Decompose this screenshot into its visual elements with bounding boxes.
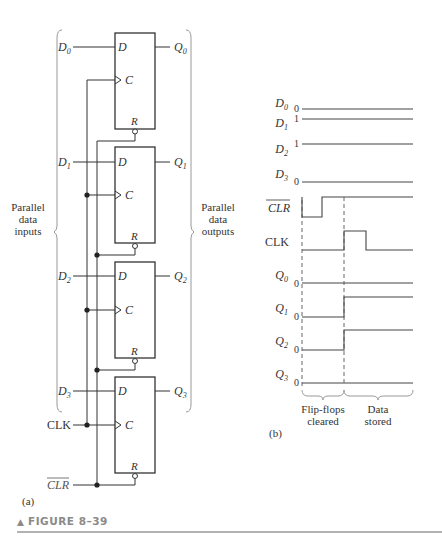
signal-q2: Q2: [275, 334, 288, 350]
signal-d0: D0: [274, 96, 288, 112]
level-label: 0: [294, 377, 299, 388]
waveform-q2: [302, 330, 413, 350]
inputs-label-line: inputs: [15, 225, 42, 237]
outputs-label-line: outputs: [202, 225, 234, 237]
level-label: 0: [294, 176, 299, 187]
inputs-brace: [54, 30, 62, 412]
outputs-label-line: data: [209, 213, 227, 225]
junction-dot: [84, 192, 89, 197]
signal-clk: CLK: [265, 235, 289, 249]
signal-q3: Q3: [275, 367, 288, 383]
pin-r-label: R: [130, 230, 138, 242]
clock-triangle-icon: [115, 76, 121, 84]
pin-d-label: D: [117, 384, 127, 398]
reset-bubble-icon: [133, 359, 138, 364]
junction-dot: [94, 252, 99, 257]
inputs-label-line: data: [19, 213, 37, 225]
pin-r-label: R: [130, 115, 138, 127]
figure-caption: FIGURE 8–39: [28, 515, 108, 527]
junction-dot: [94, 367, 99, 372]
signal-q0: Q0: [275, 268, 288, 284]
figure-canvas: D C R D C R D C R D C R D0 D1 D2 D3 Q0 Q…: [0, 0, 442, 538]
level-label: 0: [294, 311, 299, 322]
phase2-label: Data: [368, 403, 389, 415]
pin-d-label: D: [117, 155, 127, 169]
junction-dot: [84, 307, 89, 312]
q2-label: Q2: [174, 269, 187, 285]
level-label: 0: [294, 278, 299, 289]
phase1-label: Flip-flops: [301, 403, 344, 415]
q1-label: Q1: [174, 155, 187, 171]
reset-bubble-icon: [133, 244, 138, 249]
d1-label: D1: [57, 155, 71, 171]
reset-bubble-icon: [133, 474, 138, 479]
part-b-label: (b): [269, 427, 282, 440]
junction-dot: [94, 482, 99, 487]
pin-d-label: D: [117, 269, 127, 283]
reset-bubble-icon: [133, 129, 138, 134]
waveform-clk: [302, 231, 413, 250]
waveform-clr: [302, 197, 413, 217]
clock-triangle-icon: [115, 191, 121, 199]
clock-triangle-icon: [115, 421, 121, 429]
pin-c-label: C: [125, 303, 134, 317]
signal-d3: D3: [274, 167, 288, 183]
level-label: 1: [294, 138, 299, 149]
pin-c-label: C: [125, 418, 134, 432]
pin-r-label: R: [130, 345, 138, 357]
signal-q1: Q1: [275, 301, 288, 317]
phase2-label: stored: [365, 415, 392, 427]
clock-triangle-icon: [115, 306, 121, 314]
waveform-q1: [302, 297, 413, 317]
phase1-brace: [302, 390, 344, 400]
d0-label: D0: [57, 40, 71, 56]
pin-c-label: C: [125, 73, 134, 87]
clk-label: CLK: [47, 418, 71, 432]
signal-d2: D2: [274, 142, 288, 158]
q0-label: Q0: [174, 40, 187, 56]
junction-dot: [84, 422, 89, 427]
pin-d-label: D: [117, 40, 127, 54]
part-a-label: (a): [22, 495, 35, 508]
outputs-label-line: Parallel: [201, 201, 235, 213]
outputs-brace: [186, 30, 194, 412]
inputs-label-line: Parallel: [11, 201, 45, 213]
caption-marker-icon: ▲: [17, 517, 24, 527]
signal-clr: CLR: [268, 201, 291, 215]
pin-r-label: R: [130, 460, 138, 472]
d3-label: D3: [57, 384, 71, 400]
pin-c-label: C: [125, 188, 134, 202]
level-label: 0: [294, 344, 299, 355]
q3-label: Q3: [174, 384, 187, 400]
d2-label: D2: [57, 269, 71, 285]
figure-8-39: D C R D C R D C R D C R D0 D1 D2 D3 Q0 Q…: [0, 0, 442, 538]
clr-label: CLR: [47, 478, 70, 492]
signal-d1: D1: [274, 116, 288, 132]
phase2-brace: [344, 390, 413, 400]
level-label: 1: [294, 113, 299, 124]
phase1-label: cleared: [307, 415, 339, 427]
